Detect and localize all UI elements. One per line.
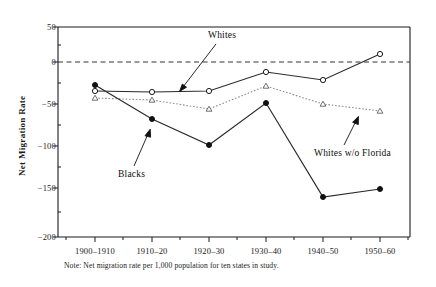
y-tick-label-minus-150: −150 (16, 183, 56, 193)
y-tick-label-minus-200: −200 (16, 232, 56, 242)
annotation-whites-wo-florida: Whites w/o Florida (314, 148, 391, 158)
plot-area (0, 0, 436, 287)
annotation-whites: Whites (208, 30, 236, 40)
annotation-blacks: Blacks (118, 169, 145, 179)
y-tick-label-minus-50: −50 (16, 99, 56, 109)
x-axis-ticks (66, 237, 408, 242)
y-tick-label-minus-100: −100 (16, 141, 56, 151)
y-tick-label-0: 0 (16, 57, 56, 67)
x-tick-label-1950-60: 1950–60 (345, 246, 415, 256)
chart-note: Note: Net migration rate per 1,000 popul… (64, 261, 279, 270)
series-whites (92, 51, 382, 94)
plot-frame (58, 27, 410, 237)
migration-rate-line-chart: Net Migration Rate 50 0 −50 −100 −150 −2… (0, 0, 436, 287)
series-blacks (93, 83, 383, 200)
y-tick-label-50: 50 (16, 22, 56, 32)
